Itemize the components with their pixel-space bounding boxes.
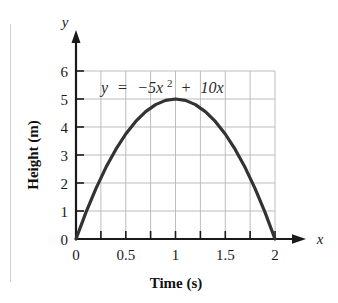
equation-plus: + [182,79,191,96]
y-tick-label-4: 4 [61,120,69,136]
x-tick-label-2: 2 [271,247,279,263]
svg-text:y = −5x: y = −5x 2 + 10x [99,73,224,97]
equation-exponent: 2 [167,77,173,89]
equation-annotation: y = −5x 2 + 10x [99,73,224,97]
x-tick-label-0: 0 [72,247,80,263]
equation-term1: −5x [137,79,163,96]
y-tick-label-5: 5 [61,92,69,108]
graph-figure: 0 1 2 3 4 5 6 0 0.5 1 1.5 2 y x y = −5x … [0,0,338,303]
x-tick-label-1-5: 1.5 [216,247,235,263]
y-axis-title: Height (m) [25,120,42,190]
y-axis-ticks [76,71,84,211]
y-axis-variable-label: y [60,14,69,30]
equation-term2: 10x [201,79,224,96]
x-axis-ticks [101,231,275,239]
x-axis-variable-label: x [316,231,324,247]
y-tick-label-6: 6 [61,64,69,80]
x-axis-title: Time (s) [150,275,203,292]
equation-lhs: y [99,79,109,97]
y-axis-arrowhead [72,30,81,43]
y-tick-label-3: 3 [61,148,69,164]
y-tick-label-2: 2 [61,176,69,192]
x-axis-arrowhead [292,234,306,244]
x-tick-label-1: 1 [172,247,180,263]
left-margin-rule [10,24,11,282]
y-tick-label-0: 0 [61,232,69,248]
x-tick-label-0-5: 0.5 [116,247,135,263]
parabola-chart: 0 1 2 3 4 5 6 0 0.5 1 1.5 2 y x y = −5x … [0,0,338,303]
y-tick-label-1: 1 [61,204,69,220]
equation-equals: = [118,79,127,96]
grid-lines [76,71,275,239]
